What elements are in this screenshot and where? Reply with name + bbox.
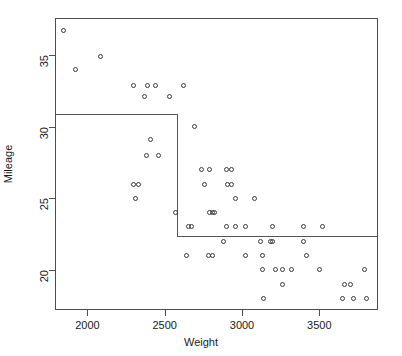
y-axis-tick-label: 25: [38, 198, 50, 210]
y-axis-tick-label: 20: [38, 270, 50, 282]
y-axis-tick-label: 35: [38, 55, 50, 67]
x-axis-tick-label: 3500: [307, 319, 331, 331]
x-axis-tick: [242, 310, 243, 316]
x-axis-tick: [87, 310, 88, 316]
x-axis-tick-label: 2500: [152, 319, 176, 331]
x-axis-tick: [319, 310, 320, 316]
y-axis-tick-label: 30: [38, 127, 50, 139]
scatter-plot-figure: 202530352000250030003500 Weight Mileage: [0, 0, 402, 356]
x-axis-tick: [165, 310, 166, 316]
plot-frame: [55, 18, 378, 310]
y-axis-title: Mileage: [2, 145, 14, 184]
x-axis-tick-label: 3000: [230, 319, 254, 331]
x-axis-tick-label: 2000: [75, 319, 99, 331]
x-axis-title: Weight: [0, 336, 402, 348]
